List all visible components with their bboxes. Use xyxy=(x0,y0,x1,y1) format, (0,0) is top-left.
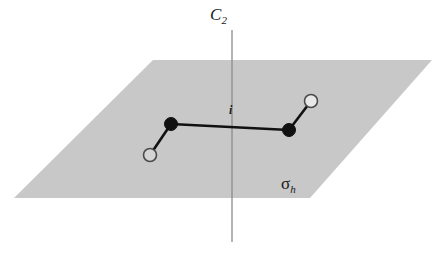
c2-axis-label-subscript: 2 xyxy=(222,14,228,26)
mirror-plane-label: σh xyxy=(281,175,296,195)
diagram-canvas xyxy=(0,0,441,254)
atom-open-lower-left xyxy=(144,149,157,162)
mirror-plane-label-subscript: h xyxy=(290,183,296,195)
sigma-glyph: σ xyxy=(281,174,290,193)
c2-axis-label-text: C xyxy=(210,5,221,24)
c2-axis-label: C2 xyxy=(210,6,227,26)
atom-filled-left xyxy=(165,118,178,131)
atom-filled-right xyxy=(283,124,296,137)
mirror-plane-sigma-h xyxy=(14,60,432,198)
inversion-center-label: i xyxy=(229,104,232,116)
symmetry-diagram-figure: C2 i σh xyxy=(0,0,441,254)
atom-open-upper-right xyxy=(305,95,318,108)
